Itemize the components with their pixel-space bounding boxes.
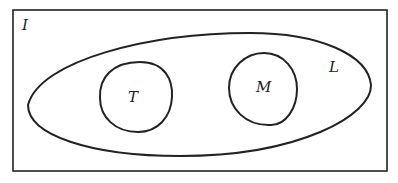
set-T-label: T bbox=[128, 90, 138, 105]
universe-label: I bbox=[22, 18, 28, 33]
set-L-label: L bbox=[329, 60, 339, 75]
set-M-label: M bbox=[256, 80, 271, 95]
set-L-ellipse bbox=[28, 33, 371, 156]
venn-diagram bbox=[0, 0, 398, 183]
